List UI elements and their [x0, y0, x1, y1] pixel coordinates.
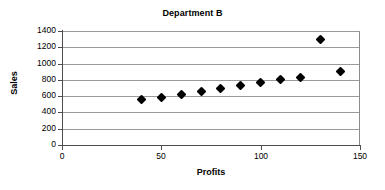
x-tick-label-100: 100	[241, 152, 281, 161]
data-point	[156, 93, 166, 103]
y-axis-line	[62, 30, 63, 146]
gridline-y-800	[62, 80, 360, 81]
y-tick-1400	[58, 31, 62, 32]
y-tick-800	[58, 80, 62, 81]
gridline-y-1000	[62, 64, 360, 65]
y-tick-label-1400: 1400	[16, 26, 56, 35]
x-tick-50	[161, 146, 162, 150]
y-tick-label-200: 200	[16, 124, 56, 133]
data-point	[196, 86, 206, 96]
gridline-y-400	[62, 112, 360, 113]
scatter-chart: Department B 0200400600800100012001400 0…	[0, 0, 385, 190]
y-tick-label-1200: 1200	[16, 42, 56, 51]
gridline-y-1400	[62, 31, 360, 32]
y-axis-title: Sales	[9, 53, 19, 113]
gridline-y-1200	[62, 47, 360, 48]
data-point	[315, 35, 325, 45]
x-axis-line	[62, 145, 361, 146]
gridline-y-600	[62, 96, 360, 97]
data-point	[176, 90, 186, 100]
y-tick-1000	[58, 64, 62, 65]
plot-area	[62, 31, 360, 145]
x-tick-label-0: 0	[42, 152, 82, 161]
x-tick-label-50: 50	[141, 152, 181, 161]
chart-title: Department B	[0, 8, 385, 18]
y-tick-label-400: 400	[16, 107, 56, 116]
y-tick-400	[58, 112, 62, 113]
y-tick-1200	[58, 47, 62, 48]
plot-right-border	[359, 31, 360, 145]
data-point	[335, 66, 345, 76]
x-axis-title: Profits	[62, 167, 360, 177]
x-tick-100	[261, 146, 262, 150]
data-point	[216, 84, 226, 94]
x-tick-label-150: 150	[340, 152, 380, 161]
y-tick-label-800: 800	[16, 75, 56, 84]
x-tick-0	[62, 146, 63, 150]
data-point	[236, 81, 246, 91]
y-tick-label-0: 0	[16, 140, 56, 149]
gridline-y-200	[62, 129, 360, 130]
y-tick-600	[58, 96, 62, 97]
x-tick-150	[360, 146, 361, 150]
y-tick-label-1000: 1000	[16, 59, 56, 68]
y-tick-label-600: 600	[16, 91, 56, 100]
data-point	[276, 75, 286, 85]
y-tick-200	[58, 129, 62, 130]
